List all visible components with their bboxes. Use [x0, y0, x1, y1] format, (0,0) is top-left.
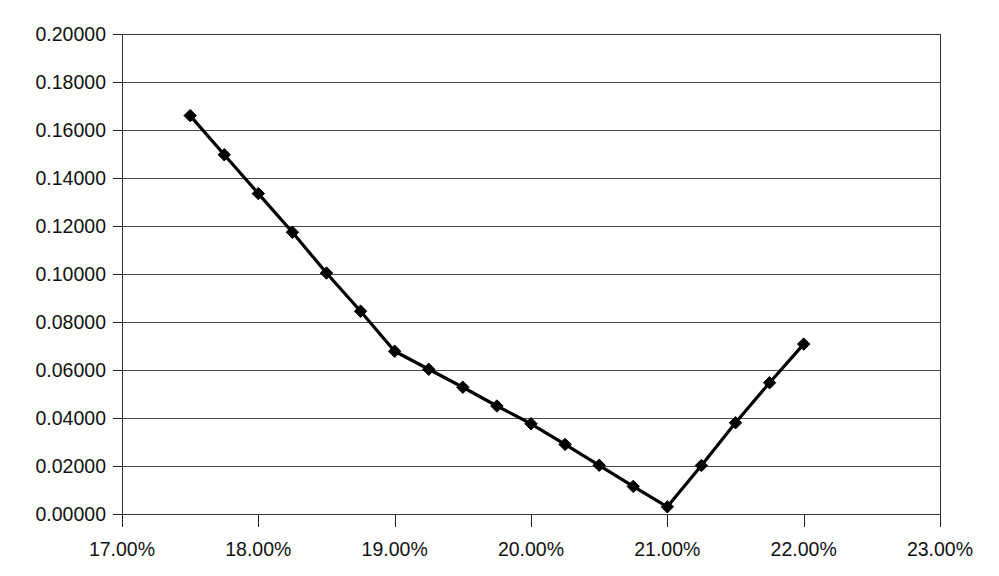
y-axis-tick-label: 0.20000: [36, 23, 107, 45]
x-axis-tick-marks: [123, 514, 941, 527]
chart-container: 0.000000.020000.040000.060000.080000.100…: [0, 0, 999, 576]
x-axis-tick-label: 20.00%: [498, 538, 564, 560]
x-axis-tick-labels: 17.00%18.00%19.00%20.00%21.00%22.00%23.0…: [89, 538, 973, 560]
data-point-marker: [457, 381, 469, 393]
y-axis-tick-label: 0.06000: [36, 359, 107, 381]
data-series-line: [190, 116, 804, 507]
y-axis-tick-label: 0.18000: [36, 71, 107, 93]
gridlines: [122, 35, 940, 515]
y-axis-tick-label: 0.14000: [36, 167, 107, 189]
y-axis-tick-label: 0.02000: [36, 455, 107, 477]
x-axis-tick-label: 21.00%: [634, 538, 700, 560]
y-axis-tick-label: 0.12000: [36, 215, 107, 237]
data-series-markers: [184, 109, 810, 513]
x-axis-tick-label: 17.00%: [89, 538, 155, 560]
x-axis-tick-label: 18.00%: [225, 538, 291, 560]
y-axis-tick-label: 0.08000: [36, 311, 107, 333]
series-line-path: [190, 116, 804, 507]
y-axis-tick-labels: 0.000000.020000.040000.060000.080000.100…: [36, 23, 107, 525]
line-chart: 0.000000.020000.040000.060000.080000.100…: [0, 0, 999, 576]
y-axis-tick-label: 0.16000: [36, 119, 107, 141]
data-point-marker: [423, 363, 435, 375]
y-axis-tick-marks: [113, 35, 122, 515]
x-axis-tick-label: 23.00%: [907, 538, 973, 560]
data-point-marker: [491, 400, 503, 412]
y-axis-tick-label: 0.10000: [36, 263, 107, 285]
x-axis-tick-label: 22.00%: [771, 538, 837, 560]
y-axis-tick-label: 0.04000: [36, 407, 107, 429]
y-axis-tick-label: 0.00000: [36, 503, 107, 525]
x-axis-tick-label: 19.00%: [362, 538, 428, 560]
